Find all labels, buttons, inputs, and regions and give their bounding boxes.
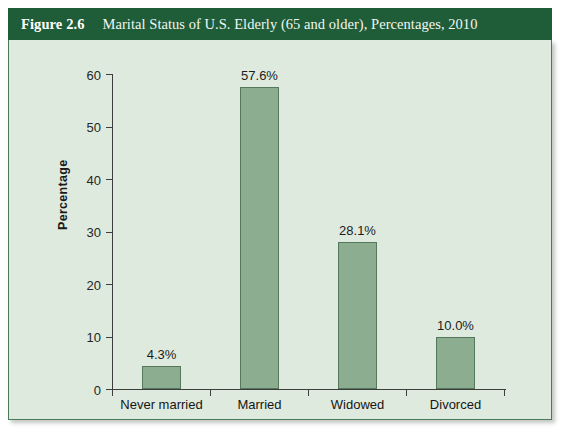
figure-header: Figure 2.6 Marital Status of U.S. Elderl… [8, 8, 552, 40]
x-axis-tick [504, 390, 505, 396]
chart-panel: Percentage 0 10 20 30 40 50 [8, 40, 552, 420]
y-axis-tick-label: 40 [87, 172, 101, 187]
bar-value-label: 28.1% [339, 223, 376, 238]
y-axis-tick: 40 [106, 179, 112, 180]
x-axis-category-label: Never married [120, 397, 202, 412]
bar-value-label: 57.6% [241, 68, 278, 83]
y-axis-title: Percentage [56, 160, 70, 230]
y-axis-tick-label: 10 [87, 330, 101, 345]
bar-divorced[interactable]: 10.0% Divorced [436, 337, 475, 390]
y-axis-tick: 20 [106, 284, 112, 285]
y-axis-tick: 10 [106, 337, 112, 338]
figure-title: Marital Status of U.S. Elderly (65 and o… [103, 16, 478, 33]
y-axis-tick-label: 60 [87, 67, 101, 82]
x-axis-tick [406, 390, 407, 396]
figure-number: Figure 2.6 [21, 16, 85, 33]
x-axis-category-label: Married [237, 397, 281, 412]
x-axis-tick [210, 390, 211, 396]
y-axis-tick: 60 [106, 74, 112, 75]
bar-married[interactable]: 57.6% Married [240, 87, 279, 389]
bar-value-label: 4.3% [147, 347, 177, 362]
plot-area: 0 10 20 30 40 50 60 [113, 74, 505, 389]
y-axis-line [112, 74, 113, 390]
x-axis-tick [112, 390, 113, 396]
bar-value-label: 10.0% [437, 318, 474, 333]
y-axis-tick-label: 20 [87, 277, 101, 292]
y-axis-tick-label: 0 [94, 382, 101, 397]
y-axis-tick-label: 50 [87, 120, 101, 135]
x-axis-category-label: Widowed [331, 397, 384, 412]
bar-never-married[interactable]: 4.3% Never married [142, 366, 181, 389]
y-axis-tick: 50 [106, 127, 112, 128]
y-axis-tick: 30 [106, 232, 112, 233]
x-axis-category-label: Divorced [430, 397, 481, 412]
figure-container: Figure 2.6 Marital Status of U.S. Elderl… [8, 8, 552, 420]
bar-widowed[interactable]: 28.1% Widowed [338, 242, 377, 390]
y-axis-tick-label: 30 [87, 225, 101, 240]
x-axis-tick [308, 390, 309, 396]
